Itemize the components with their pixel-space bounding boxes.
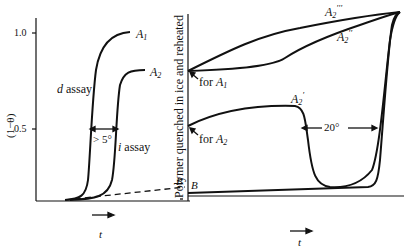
label-a2-sub: 2	[157, 71, 161, 80]
gap-5-degree-label: > 5°	[93, 134, 112, 145]
for-a2-sub: 2	[223, 138, 227, 147]
for-a1-label: for A1	[199, 76, 227, 90]
y-axis-label: (1−θ)	[4, 114, 16, 138]
for-a2-text: for	[199, 132, 216, 146]
gap-20-degree-label: 20°	[324, 122, 339, 133]
label-a2-double-prime: A2′′	[337, 29, 352, 45]
label-a2-prime: A2′	[291, 91, 304, 107]
label-a1-sub: 1	[143, 33, 147, 42]
label-a2: A2	[150, 66, 161, 80]
label-a1: A1	[136, 28, 147, 42]
label-a2-double-prime-mark: ′′	[348, 28, 352, 38]
left-x-label-t: t	[99, 229, 102, 240]
for-a2-label: for A2	[199, 133, 227, 147]
for-a1-sub: 1	[223, 81, 227, 90]
label-a2-triple-prime: A2′′′	[325, 4, 342, 20]
curve-a2-double-prime	[188, 12, 400, 71]
right-baseline-b: B	[191, 180, 198, 191]
label-a2-triple-prime-mark: ′′′	[336, 3, 342, 13]
for-a1-text: for	[199, 75, 216, 89]
curve-a2-triple-prime	[188, 12, 400, 71]
d-assay-label: d assay	[57, 83, 92, 95]
vertical-caption: Polymer quenched in ice and reheated	[172, 15, 187, 198]
right-x-label-t: t	[298, 237, 301, 248]
i-assay-label: i assay	[118, 141, 150, 153]
y-tick-1.0: 1.0	[14, 28, 27, 38]
label-a2-single-prime-mark: ′	[302, 90, 304, 100]
d-assay-text: assay	[63, 82, 92, 96]
i-assay-text: assay	[121, 140, 150, 154]
curve-a1	[65, 32, 130, 200]
